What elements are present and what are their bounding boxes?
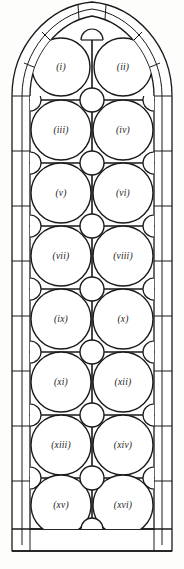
panel-label-3: (iii): [53, 125, 68, 136]
panel-label-13: (xiii): [51, 440, 71, 451]
gothic-window-figure: (i) (ii) (iii) (iv) (v) (vi) (vii) (viii…: [0, 0, 184, 569]
panel-label-9: (ix): [54, 314, 68, 325]
roundel-1[interactable]: [80, 88, 104, 112]
panel-label-10: (x): [117, 314, 128, 325]
roundel-2[interactable]: [80, 151, 104, 175]
panel-label-6: (vi): [116, 188, 130, 199]
panel-label-5: (v): [55, 188, 66, 199]
roundel-5[interactable]: [80, 340, 104, 364]
roundel-4[interactable]: [80, 277, 104, 301]
roundel-3[interactable]: [80, 214, 104, 238]
panel-label-8: (viii): [113, 251, 133, 262]
window-tracery-drawing: (i) (ii) (iii) (iv) (v) (vi) (vii) (viii…: [0, 0, 184, 569]
roundel-6[interactable]: [80, 403, 104, 427]
panel-label-4: (iv): [116, 125, 130, 136]
panel-label-2: (ii): [117, 62, 129, 73]
panel-label-15: (xv): [53, 500, 69, 511]
panel-label-14: (xiv): [114, 440, 132, 451]
panel-label-11: (xi): [54, 377, 68, 388]
panel-label-1: (i): [56, 62, 66, 73]
panel-label-7: (vii): [53, 251, 70, 262]
panel-label-12: (xii): [115, 377, 132, 388]
roundel-7[interactable]: [80, 466, 104, 490]
panel-label-16: (xvi): [114, 500, 132, 511]
